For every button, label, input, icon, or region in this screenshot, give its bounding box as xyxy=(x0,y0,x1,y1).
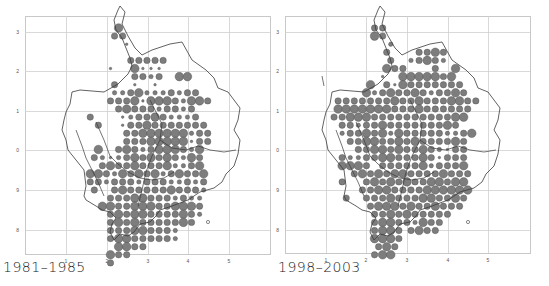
survey-dot xyxy=(139,129,148,138)
survey-dot xyxy=(115,227,121,233)
survey-dot xyxy=(388,114,394,120)
survey-dot xyxy=(358,170,367,179)
survey-dot xyxy=(439,170,448,179)
survey-dot xyxy=(124,163,130,169)
open-circle-marker xyxy=(206,220,209,223)
survey-dot xyxy=(128,90,134,96)
survey-dot xyxy=(431,48,440,57)
survey-dot xyxy=(371,114,377,120)
survey-dot xyxy=(396,114,402,120)
survey-dot xyxy=(424,49,430,55)
survey-dot xyxy=(152,187,158,193)
survey-dot xyxy=(400,106,406,112)
survey-dot xyxy=(386,226,395,235)
survey-dot xyxy=(188,106,194,112)
survey-dot xyxy=(115,252,121,258)
survey-dot xyxy=(129,115,133,119)
survey-dot xyxy=(150,67,153,70)
survey-dot xyxy=(164,227,170,233)
survey-dot xyxy=(147,202,156,211)
survey-dot xyxy=(459,178,468,187)
survey-dot xyxy=(386,194,395,203)
survey-dot xyxy=(404,122,410,128)
survey-dot xyxy=(386,178,395,187)
survey-dot xyxy=(371,195,377,201)
survey-dot xyxy=(339,179,345,185)
survey-dot xyxy=(180,195,186,201)
survey-dot xyxy=(172,211,178,217)
x-tick-label: 3 xyxy=(406,257,409,263)
survey-dot xyxy=(179,210,188,219)
survey-dot xyxy=(431,72,440,81)
survey-dot xyxy=(379,138,385,144)
survey-dot xyxy=(370,32,379,41)
survey-dot xyxy=(200,122,206,128)
survey-dot xyxy=(379,114,385,120)
survey-dot xyxy=(148,195,154,201)
survey-dot xyxy=(452,122,458,128)
survey-dot xyxy=(424,98,430,104)
survey-dot xyxy=(375,98,381,104)
y-tick-label: 2 xyxy=(16,68,19,74)
survey-dot xyxy=(415,97,424,106)
survey-dot xyxy=(115,98,121,104)
survey-dot xyxy=(431,186,440,195)
panel-caption: 1998–2003 xyxy=(278,259,361,275)
survey-dot xyxy=(394,83,397,86)
survey-dot xyxy=(355,146,361,152)
survey-dot xyxy=(335,98,341,104)
survey-dot xyxy=(428,114,434,120)
survey-dot xyxy=(144,57,150,63)
y-tick-label: 1 xyxy=(16,108,19,114)
survey-dot xyxy=(407,72,416,81)
survey-dot xyxy=(392,244,398,250)
survey-dot xyxy=(378,121,387,130)
survey-dot xyxy=(164,106,170,112)
survey-dot xyxy=(444,138,450,144)
y-tick-label: 1 xyxy=(276,108,279,114)
survey-dot xyxy=(156,163,162,169)
survey-dot xyxy=(140,138,146,144)
survey-dot xyxy=(172,154,178,160)
survey-dot xyxy=(136,57,142,63)
y-tick-label: 3 xyxy=(16,29,19,35)
survey-dot xyxy=(400,187,406,193)
survey-dot xyxy=(440,82,446,88)
survey-dot xyxy=(411,89,420,98)
survey-dot xyxy=(459,161,468,170)
survey-dot xyxy=(400,203,406,209)
survey-dot xyxy=(386,218,395,227)
survey-dot xyxy=(106,202,115,211)
survey-dot xyxy=(115,163,121,169)
survey-dot xyxy=(419,145,428,154)
survey-dot xyxy=(444,90,450,96)
survey-dot xyxy=(94,145,103,154)
survey-dot xyxy=(168,90,174,96)
survey-dot xyxy=(184,187,190,193)
survey-dot xyxy=(181,99,185,103)
survey-dot xyxy=(111,179,117,185)
survey-dot xyxy=(116,155,120,159)
survey-dot xyxy=(455,97,464,106)
survey-dot xyxy=(205,98,211,104)
survey-dot xyxy=(408,171,414,177)
survey-dot xyxy=(419,161,428,170)
survey-dot xyxy=(124,98,130,104)
survey-dot xyxy=(424,106,430,112)
survey-dot xyxy=(441,58,445,62)
survey-dot xyxy=(199,170,208,179)
survey-dot xyxy=(432,171,438,177)
survey-dot xyxy=(122,242,131,251)
survey-dot xyxy=(459,113,468,122)
survey-dot xyxy=(135,89,144,98)
x-tick-label: 5 xyxy=(228,258,231,264)
survey-dot xyxy=(112,172,116,176)
survey-dot xyxy=(388,146,394,152)
survey-dot xyxy=(177,180,181,184)
survey-dot xyxy=(132,235,138,241)
survey-dot xyxy=(154,83,157,86)
survey-dot xyxy=(428,219,434,225)
survey-dot xyxy=(100,155,104,159)
survey-dot xyxy=(155,129,164,138)
survey-dot xyxy=(156,227,162,233)
